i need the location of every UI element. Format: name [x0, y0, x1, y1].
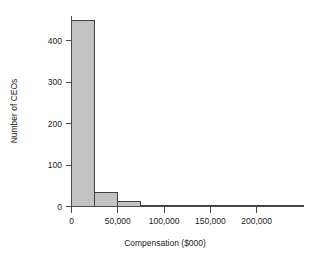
histogram-bar — [118, 202, 141, 207]
y-axis-title: Number of CEOs — [9, 79, 19, 144]
x-tick-label: 200,000 — [241, 216, 272, 226]
x-tick-label: 0 — [69, 216, 74, 226]
y-tick-label: 400 — [48, 36, 62, 46]
y-tick-label: 100 — [48, 160, 62, 170]
x-tick-label: 150,000 — [195, 216, 226, 226]
histogram-bar — [72, 20, 95, 206]
y-tick-label: 0 — [57, 202, 62, 212]
x-tick-label: 50,000 — [105, 216, 131, 226]
histogram-chart: 0100200300400 050,000100,000150,000200,0… — [0, 0, 310, 268]
y-tick-label: 200 — [48, 119, 62, 129]
y-tick-label: 300 — [48, 77, 62, 87]
y-ticks-group: 0100200300400 — [48, 36, 72, 212]
x-tick-label: 100,000 — [149, 216, 180, 226]
x-ticks-group: 050,000100,000150,000200,000 — [69, 207, 272, 227]
histogram-bar — [95, 193, 118, 207]
x-axis-title: Compensation ($000) — [124, 238, 206, 248]
bars-group — [72, 20, 304, 206]
